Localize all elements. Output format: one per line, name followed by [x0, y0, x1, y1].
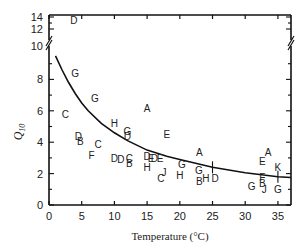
- data-point-a: A: [144, 103, 151, 114]
- x-tick-label: 0: [46, 210, 52, 222]
- x-tick-label: 35: [272, 210, 284, 222]
- x-tick-label: 25: [206, 210, 218, 222]
- y-tick-label: 8: [37, 73, 43, 85]
- data-point-c: C: [157, 173, 164, 184]
- data-point-g: G: [178, 159, 186, 170]
- data-point-a: A: [265, 147, 272, 158]
- x-tick-label: 30: [239, 210, 251, 222]
- data-point-g: G: [91, 93, 99, 104]
- y-tick-label: 2: [37, 168, 43, 180]
- y-tick-label: 4: [37, 136, 43, 148]
- y-axis-title-main: Q: [11, 131, 25, 140]
- data-point-g: G: [274, 184, 282, 195]
- data-point-h: H: [111, 118, 118, 129]
- x-tick-label: 20: [174, 210, 186, 222]
- data-point-f: F: [88, 150, 94, 161]
- data-point-k: K: [275, 162, 282, 173]
- fit-curve: [56, 56, 292, 183]
- data-point-d: D: [212, 173, 219, 184]
- x-tick-label: 10: [108, 210, 120, 222]
- data-point-d: D: [124, 131, 131, 142]
- y-tick-label: 12: [31, 23, 43, 35]
- data-point-c: C: [62, 109, 69, 120]
- data-point-e: E: [163, 129, 170, 140]
- data-point-h: H: [176, 170, 183, 181]
- y-tick-label: 0: [37, 199, 43, 211]
- y-tick-label: 10: [31, 40, 43, 52]
- x-tick-label: 5: [79, 210, 85, 222]
- x-tick-label: 15: [141, 210, 153, 222]
- y-axis-title-sub: 10: [18, 124, 27, 132]
- q10-temperature-chart: 0510152025303502468101214 DGGCAHGDEDBCFD…: [0, 0, 308, 250]
- data-point-h: H: [143, 162, 150, 173]
- data-point-b: B: [126, 158, 133, 169]
- data-point-h: H: [202, 173, 209, 184]
- y-tick-label: 6: [37, 105, 43, 117]
- data-point-a: A: [196, 147, 203, 158]
- data-point-e: E: [259, 156, 266, 167]
- data-point-d: D: [70, 15, 77, 26]
- y-tick-label: 14: [31, 11, 43, 23]
- y-axis-title: Q10: [11, 124, 27, 141]
- x-axis-title: Temperature (°C): [131, 230, 209, 243]
- data-point-e: E: [157, 153, 164, 164]
- data-point-c: C: [94, 139, 101, 150]
- data-point-j: J: [262, 184, 267, 195]
- data-point-g: G: [248, 181, 256, 192]
- data-point-g: G: [71, 68, 79, 79]
- data-point-d: D: [117, 154, 124, 165]
- data-point-b: B: [77, 136, 84, 147]
- data-points: DGGCAHGDEDBCFDDCBDEDEHGJCHAGBHDGFBJEAKG: [62, 15, 282, 195]
- plot-frame: [46, 15, 294, 205]
